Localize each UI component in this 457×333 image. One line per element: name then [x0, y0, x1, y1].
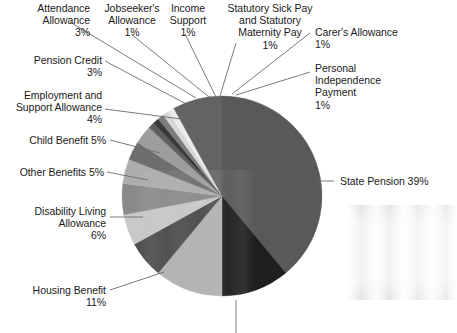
scan-artifact-right — [348, 205, 457, 300]
label-attendance-allowance: Attendance Allowance 3% — [6, 2, 90, 39]
label-carers-allowance: Carer's Allowance 1% — [315, 26, 453, 50]
label-disability-living-allowance: Disability Living Allowance 6% — [6, 205, 106, 242]
label-employment-support-allowance: Employment and Support Allowance 4% — [2, 89, 102, 126]
label-child-benefit: Child Benefit 5% — [6, 134, 106, 146]
leader-personal-independence-payment — [236, 72, 310, 95]
label-statutory-pay: Statutory Sick Pay and Statutory Materni… — [215, 2, 325, 51]
label-pension-credit: Pension Credit 3% — [6, 54, 102, 78]
leader-income-support — [185, 34, 216, 97]
label-other-benefits: Other Benefits 5% — [4, 166, 104, 178]
label-housing-benefit: Housing Benefit 11% — [6, 284, 106, 308]
label-state-pension: State Pension 39% — [340, 175, 456, 187]
label-personal-independence-payment: Personal Independence Payment 1% — [315, 62, 447, 111]
pie-chart: Attendance Allowance 3% Jobseeker's Allo… — [0, 0, 457, 333]
leader-statutory-pay — [220, 43, 236, 96]
scan-artifact-overlay-pie — [135, 170, 255, 300]
label-income-support: Income Support 1% — [160, 2, 216, 39]
label-jobseekers-allowance: Jobseeker's Allowance 1% — [94, 2, 170, 39]
leader-housing-benefit — [110, 272, 164, 290]
leader-pension-credit — [105, 61, 190, 106]
